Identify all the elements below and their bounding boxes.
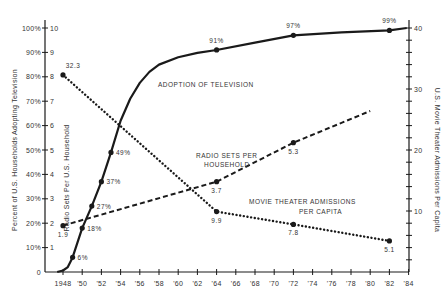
left-tick-label-radio: 6 — [50, 122, 54, 129]
x-tick-label: '58 — [154, 280, 164, 287]
tv-point-label: 18% — [87, 225, 102, 232]
radio-point — [214, 179, 219, 184]
left-tick-label-percent: 30% — [26, 195, 41, 202]
movie-point-label: 7.8 — [288, 229, 299, 236]
radio-axis-title: Radio Sets Per U.S. Household — [63, 125, 70, 232]
x-tick-label: '84 — [404, 280, 414, 287]
right-tick-label: 30 — [414, 86, 422, 93]
annotation-radio-2: HOUSEHOLD — [204, 161, 250, 168]
x-tick-label: 1948 — [55, 280, 72, 287]
x-tick-label: '50 — [77, 280, 87, 287]
tv-point — [99, 179, 104, 184]
x-tick-label: '56 — [135, 280, 145, 287]
tv-point — [80, 225, 85, 230]
x-tick-label: '52 — [96, 280, 106, 287]
x-tick-label: '74 — [308, 280, 318, 287]
left-tick-label-radio: 9 — [50, 49, 54, 56]
left-tick-label-radio: 10 — [50, 25, 58, 32]
radio-point — [60, 223, 65, 228]
x-tick-label: '64 — [212, 280, 222, 287]
left-tick-label-radio: 8 — [50, 73, 54, 80]
labels-layer: 6%18%27%37%49%91%97%99%1.93.75.332.39.97… — [58, 17, 397, 260]
x-tick-label: '62 — [192, 280, 202, 287]
tv-point-label: 6% — [78, 254, 88, 261]
radio-point-label: 5.3 — [288, 148, 299, 155]
annotation-radio-1: RADIO SETS PER — [196, 152, 258, 159]
right-axis-title: U.S. Movie Theater Admissions Per Capita — [433, 88, 441, 233]
left-tick-label-radio: 5 — [50, 147, 54, 154]
annotation-tv: ADOPTION OF TELEVISION — [158, 81, 254, 88]
x-tick-label: '68 — [250, 280, 260, 287]
x-tick-label: '76 — [327, 280, 337, 287]
left-tick-label-percent: 60% — [26, 122, 41, 129]
left-tick-label-percent: 100% — [22, 25, 41, 32]
movie-point-label: 9.9 — [211, 217, 222, 224]
tv-point-label: 27% — [97, 203, 112, 210]
x-tick-label: '70 — [269, 280, 279, 287]
movie-point-label: 5.1 — [384, 246, 395, 253]
movie-point — [291, 222, 296, 227]
left-tick-label-percent: 80% — [26, 73, 41, 80]
movie-point — [214, 209, 219, 214]
left-tick-label-percent: 90% — [26, 49, 41, 56]
tv-point-label: 49% — [116, 149, 131, 156]
tv-point — [89, 204, 94, 209]
right-tick-label: 10 — [414, 208, 422, 215]
radio-point-label: 1.9 — [58, 231, 69, 238]
radio-point-label: 3.7 — [211, 187, 222, 194]
tv-point — [214, 47, 219, 52]
tv-point — [70, 255, 75, 260]
series-layer — [57, 28, 407, 272]
tv-point-label: 99% — [382, 17, 397, 24]
left-tick-label-percent: 50% — [26, 147, 41, 154]
left-tick-label-radio: 2 — [50, 220, 54, 227]
tv-point-label: 37% — [106, 178, 121, 185]
left-tick-label-percent: 70% — [26, 98, 41, 105]
tv-point-label: 91% — [209, 37, 224, 44]
right-tick-label: 20 — [414, 147, 422, 154]
right-tick-label: 40 — [414, 25, 422, 32]
x-tick-label: '66 — [231, 280, 241, 287]
left-tick-label-percent: 10% — [26, 244, 41, 251]
left-tick-label-percent: 40% — [26, 171, 41, 178]
annotation-movie-2: PER CAPITA — [299, 208, 342, 215]
left-tick-label-percent: 20% — [26, 220, 41, 227]
radio-point — [291, 140, 296, 145]
x-tick-label: '72 — [288, 280, 298, 287]
left-tick-label-radio: 1 — [50, 244, 54, 251]
x-tick-label: '54 — [116, 280, 126, 287]
x-tick-label: '80 — [365, 280, 375, 287]
tv-point-label: 97% — [286, 22, 301, 29]
x-tick-label: '82 — [384, 280, 394, 287]
movie-point — [60, 72, 65, 77]
left-tick-label-percent: 0 — [37, 269, 41, 276]
left-tick-label-radio: 4 — [50, 171, 54, 178]
left-tick-label-radio: 7 — [50, 98, 54, 105]
annotation-movie-1: MOVIE THEATER ADMISSIONS — [249, 198, 356, 205]
movie-point-label: 32.3 — [66, 62, 81, 69]
left-tick-label-radio: 3 — [50, 195, 54, 202]
left-axis-title: Percent of U.S. Households Adopting Tele… — [11, 69, 19, 231]
movie-point — [387, 238, 392, 243]
chart: 010%120%230%340%450%560%670%780%890%9100… — [0, 0, 448, 298]
tv-point — [108, 150, 113, 155]
x-tick-label: '78 — [346, 280, 356, 287]
tv-point — [387, 28, 392, 33]
tv-point — [291, 33, 296, 38]
x-tick-label: '60 — [173, 280, 183, 287]
